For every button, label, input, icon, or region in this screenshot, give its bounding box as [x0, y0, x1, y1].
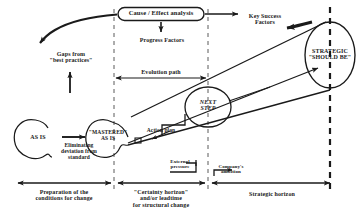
company-ambition-label: Company's ambition: [214, 164, 248, 175]
as-is-label: AS IS: [20, 134, 56, 140]
horizon-label-3: Strategic horizon: [228, 191, 316, 197]
cause-effect-to-gaps-arrow: [40, 15, 117, 44]
action-plan-label: Action plan: [137, 128, 185, 134]
mastered-as-is-label: "MASTERED" AS IS: [86, 130, 130, 142]
progress-factors-label: Progress Factors: [128, 37, 196, 43]
horizon-label-2: "Certainty horizon" and/or leadtime for …: [116, 189, 206, 208]
diagram-vector-layer: [0, 0, 362, 216]
horizon-label-1: Preparation of the conditions for change: [22, 189, 106, 202]
external-pressure-label: External pressure: [165, 159, 195, 170]
evolution-path-label: Evolution path: [126, 69, 196, 75]
next-step-label: NEXT STEP: [192, 99, 224, 112]
strategic-should-be-label: STRATEGIC "SHOULD BE": [303, 48, 357, 61]
gaps-from-best-practices-label: Gaps from "best practices": [40, 51, 102, 64]
cause-effect-analysis-label: Cause / Effect analysis: [118, 9, 204, 16]
next-step-outflow-line: [229, 87, 270, 101]
eliminating-deviation-label: Eliminating deviation from standard: [48, 143, 110, 161]
key-success-factors-label: Key Success Factors: [239, 13, 291, 26]
diagram-canvas: Cause / Effect analysis Progress Factors…: [0, 0, 362, 216]
